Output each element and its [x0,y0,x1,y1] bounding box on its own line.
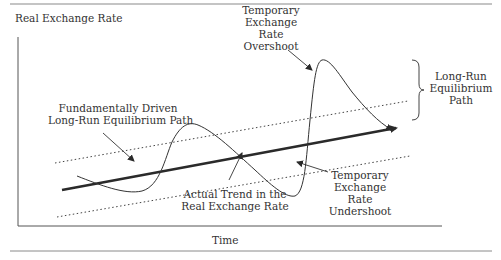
pointer-overshoot [288,50,312,70]
undershoot-label: Temporary Exchange Rate Undershoot [322,169,398,217]
pointer-fundamental [103,133,134,161]
band-label: Long-Run Equilibrium Path [428,70,494,106]
fundamental-path-label: Fundamentally Driven Long-Run Equilibriu… [48,102,188,126]
actual-trend-label: Actual Trend in the Real Exchange Rate [175,188,295,212]
x-axis-label: Time [212,234,239,246]
y-axis-label: Real Exchange Rate [15,12,122,24]
overshoot-label: Temporary Exchange Rate Overshoot [236,4,306,52]
band-brace [412,60,424,120]
